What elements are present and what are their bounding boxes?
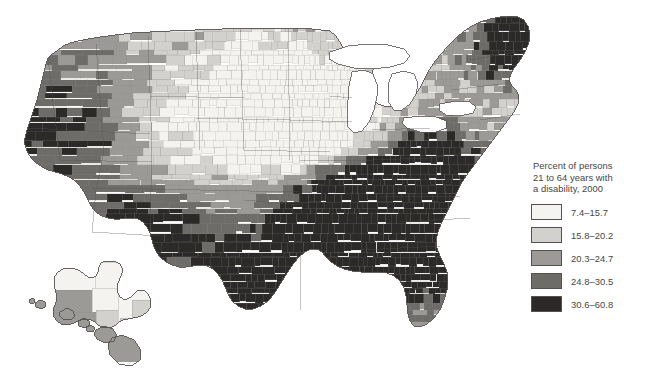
county-polygon xyxy=(261,180,268,185)
county-polygon xyxy=(499,50,505,54)
county-polygon xyxy=(200,214,211,225)
county-polygon xyxy=(205,165,217,176)
county-polygon xyxy=(284,175,295,180)
county-polygon xyxy=(494,123,499,130)
county-polygon xyxy=(325,108,333,116)
county-polygon xyxy=(37,148,61,156)
county-polygon xyxy=(507,99,515,106)
county-polygon xyxy=(281,165,292,173)
county-polygon xyxy=(403,282,412,288)
county-polygon xyxy=(212,253,221,257)
county-polygon xyxy=(389,234,397,240)
county-polygon xyxy=(338,65,345,70)
county-polygon xyxy=(345,175,352,179)
county-polygon xyxy=(437,165,441,174)
county-polygon xyxy=(341,141,347,148)
county-polygon xyxy=(294,194,299,204)
county-polygon xyxy=(457,65,464,69)
county-polygon xyxy=(317,80,327,85)
county-polygon xyxy=(227,253,240,257)
county-polygon xyxy=(353,180,363,185)
county-polygon xyxy=(414,202,424,207)
legend-swatch-3 xyxy=(531,250,562,266)
county-polygon xyxy=(377,209,387,213)
county-polygon xyxy=(444,80,451,86)
county-polygon xyxy=(216,99,227,108)
county-polygon xyxy=(362,202,367,209)
county-polygon xyxy=(152,86,167,93)
county-polygon xyxy=(356,165,361,177)
county-polygon xyxy=(420,274,430,280)
county-polygon xyxy=(56,108,68,118)
county-polygon xyxy=(297,131,305,139)
county-polygon xyxy=(420,165,428,176)
county-polygon xyxy=(302,123,312,131)
county-polygon xyxy=(170,209,183,213)
county-polygon xyxy=(213,141,223,148)
county-polygon xyxy=(368,224,378,232)
county-polygon xyxy=(177,148,192,156)
county-polygon xyxy=(353,156,361,165)
county-polygon xyxy=(372,180,380,186)
county-polygon xyxy=(168,165,176,175)
county-polygon xyxy=(469,123,479,130)
county-polygon xyxy=(410,175,420,179)
county-polygon xyxy=(321,185,328,194)
county-polygon xyxy=(496,117,504,122)
county-polygon xyxy=(235,32,248,40)
county-polygon xyxy=(170,202,188,208)
county-polygon xyxy=(408,294,414,305)
county-polygon xyxy=(292,55,299,63)
county-polygon xyxy=(167,50,177,55)
county-polygon xyxy=(227,185,236,194)
county-polygon xyxy=(268,180,278,185)
county-polygon xyxy=(218,165,228,177)
county-polygon xyxy=(313,50,319,54)
legend-row[interactable]: 15.8–20.2 xyxy=(531,227,647,244)
county-polygon xyxy=(503,32,509,41)
county-polygon xyxy=(101,80,113,85)
county-polygon xyxy=(441,165,450,176)
county-polygon xyxy=(394,267,399,275)
county-polygon xyxy=(260,86,266,94)
legend-swatch-5 xyxy=(531,296,562,312)
county-polygon xyxy=(349,253,359,257)
county-polygon xyxy=(364,131,373,142)
county-polygon xyxy=(421,141,429,148)
county-polygon xyxy=(321,194,326,201)
county-polygon xyxy=(254,202,262,208)
county-polygon xyxy=(442,65,450,70)
legend-row[interactable]: 24.8–30.5 xyxy=(531,273,647,290)
county-polygon xyxy=(436,175,445,179)
county-polygon xyxy=(418,108,425,115)
legend-row[interactable]: 7.4–15.7 xyxy=(531,204,647,221)
county-polygon xyxy=(124,99,134,106)
county-polygon xyxy=(344,242,351,251)
legend-row[interactable]: 20.3–24.7 xyxy=(531,250,647,267)
county-polygon xyxy=(122,71,134,79)
county-polygon xyxy=(108,71,122,82)
county-polygon xyxy=(261,234,272,240)
county-polygon xyxy=(215,194,229,201)
county-polygon xyxy=(505,55,512,64)
county-polygon xyxy=(433,282,440,288)
county-polygon xyxy=(415,156,421,163)
county-polygon xyxy=(489,42,496,51)
county-polygon xyxy=(166,99,179,106)
county-polygon xyxy=(228,175,235,179)
legend-row[interactable]: 30.6–60.8 xyxy=(531,296,647,313)
county-polygon xyxy=(34,99,54,106)
county-polygon xyxy=(110,108,122,117)
county-polygon xyxy=(367,257,375,268)
county-polygon xyxy=(406,214,410,222)
county-polygon xyxy=(230,131,243,141)
county-polygon xyxy=(219,180,232,186)
county-polygon xyxy=(450,65,458,70)
county-polygon xyxy=(425,234,433,242)
county-polygon xyxy=(401,224,406,233)
county-polygon xyxy=(132,86,152,94)
county-polygon xyxy=(353,224,361,235)
county-polygon xyxy=(406,185,416,193)
county-polygon xyxy=(212,32,226,42)
county-polygon xyxy=(261,148,271,156)
